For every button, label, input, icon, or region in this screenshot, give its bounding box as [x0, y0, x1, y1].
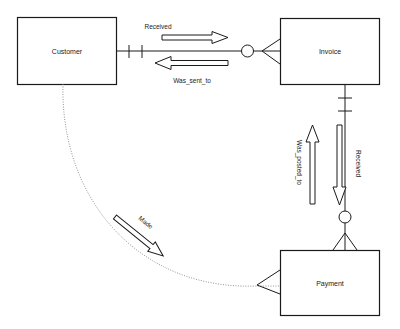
arrow-received-right-icon [162, 32, 228, 44]
cardinality-zero-circle [339, 211, 351, 223]
relationship-label-received: Received [144, 23, 171, 30]
relationship-label-received-vertical: Received [355, 150, 362, 177]
arrow-was-sent-to-left-icon [155, 57, 228, 70]
entity-payment-label: Payment [316, 280, 344, 288]
connector-customer-payment [63, 84, 280, 294]
er-diagram: Customer Invoice Payment Received Was_se… [0, 0, 400, 329]
entity-invoice-label: Invoice [319, 48, 341, 55]
arrow-received-down-icon [333, 125, 346, 205]
entity-payment[interactable]: Payment [281, 251, 380, 316]
crows-foot-icon [257, 270, 280, 294]
entity-customer-label: Customer [52, 48, 83, 55]
relationship-label-was-posted-to: Was_posted_to [295, 140, 303, 185]
arrow-was-posted-to-up-icon [306, 125, 319, 204]
relationship-label-made: Made [137, 214, 154, 230]
cardinality-zero-circle [242, 45, 254, 57]
entity-invoice[interactable]: Invoice [281, 19, 380, 85]
relationship-label-was-sent-to: Was_sent_to [173, 77, 211, 85]
entity-customer[interactable]: Customer [18, 18, 117, 85]
